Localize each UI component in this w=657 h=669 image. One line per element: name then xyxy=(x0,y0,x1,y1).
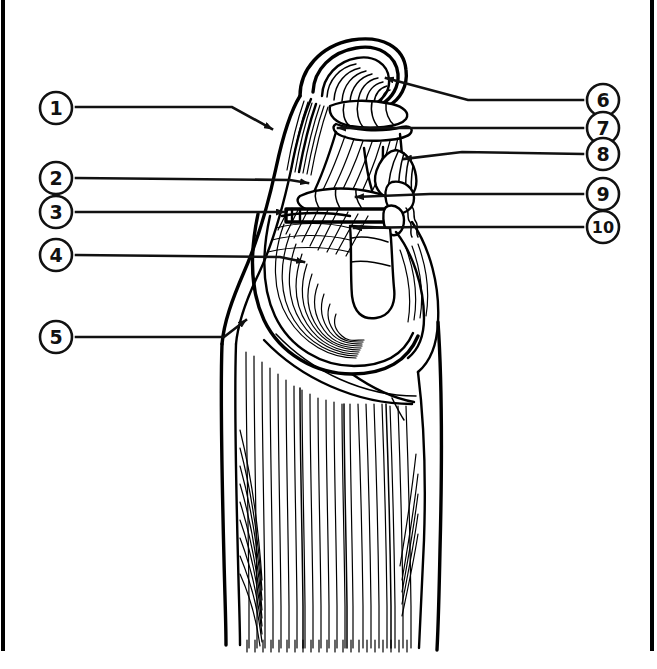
anatomical-illustration xyxy=(0,0,657,669)
diagram-page: 1 2 3 4 5 6 7 8 xyxy=(0,0,657,669)
